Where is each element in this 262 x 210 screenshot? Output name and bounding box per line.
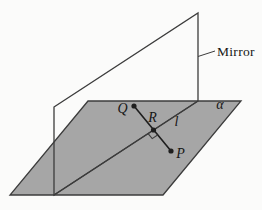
mirror-leader-line (198, 51, 215, 57)
point-q (131, 103, 136, 108)
plane-alpha-label: α (216, 97, 224, 112)
line-l-label: l (175, 114, 179, 129)
point-p (168, 148, 173, 153)
mirror-label: Mirror (217, 44, 255, 59)
point-r (151, 127, 156, 132)
diagram-canvas: Q R P l α Mirror (0, 0, 262, 210)
point-label-r: R (147, 110, 157, 125)
point-label-p: P (175, 146, 185, 161)
point-label-q: Q (117, 101, 127, 116)
geometry-diagram: Q R P l α Mirror (0, 0, 262, 210)
